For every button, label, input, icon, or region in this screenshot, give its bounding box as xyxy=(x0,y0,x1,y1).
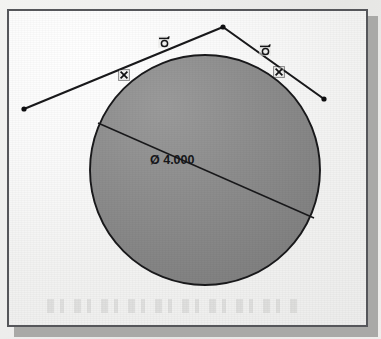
tangent-icon xyxy=(158,36,170,48)
tangent-constraint-left[interactable] xyxy=(158,36,170,48)
endpoint-apex[interactable] xyxy=(220,24,225,29)
coincident-icon xyxy=(119,70,130,81)
coincident-icon xyxy=(274,67,285,78)
cad-graphics-viewport[interactable]: Ø 4.000 xyxy=(7,9,368,327)
tangent-constraint-right[interactable] xyxy=(259,44,271,56)
coincident-constraint-right[interactable] xyxy=(274,67,285,78)
coincident-constraint-left[interactable] xyxy=(119,70,130,81)
sketch-canvas[interactable]: Ø 4.000 xyxy=(9,11,366,325)
endpoint-right[interactable] xyxy=(321,96,326,101)
diameter-dimension-label[interactable]: Ø 4.000 xyxy=(150,153,195,167)
screenshot-root: Ø 4.000 xyxy=(0,0,381,339)
tangent-icon xyxy=(259,44,271,56)
endpoint-left[interactable] xyxy=(21,106,26,111)
